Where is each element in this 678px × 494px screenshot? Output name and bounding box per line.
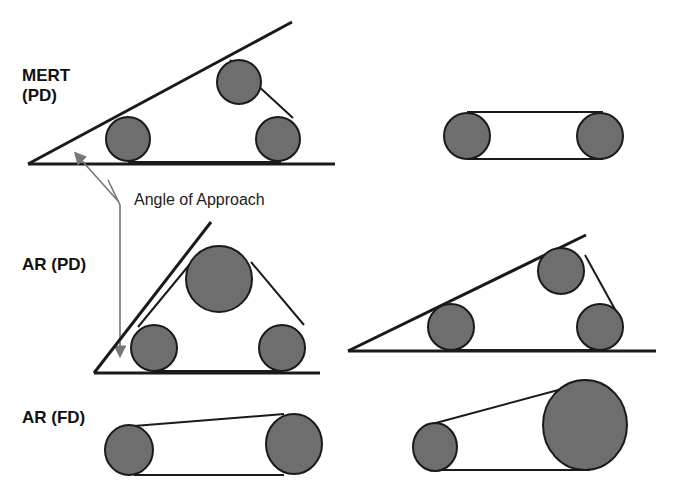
roller [256,117,300,161]
roller [259,325,305,371]
roller [217,60,261,104]
belt-top [134,414,284,426]
label-mert-line2: (PD) [22,86,70,106]
roller-large [186,246,252,312]
belt-configuration-diagram: MERT (PD) Angle of Approach AR (PD) AR (… [0,0,678,494]
roller [131,325,177,371]
arrow-to-mert [76,154,118,201]
roller [106,117,150,161]
label-angle-of-approach: Angle of Approach [134,191,265,209]
label-ar-pd: AR (PD) [22,255,86,275]
roller-large [543,380,627,470]
roller [577,304,623,350]
ar-pd-right-diagram [348,235,656,351]
label-mert-pd: MERT (PD) [22,66,70,106]
roller [105,425,153,475]
diagram-canvas [0,0,678,494]
roller [428,304,474,350]
arrow-to-ar-pd [108,180,120,355]
roller-small [413,423,457,471]
roller [266,414,322,474]
ar-pd-left-diagram [94,222,320,373]
ar-fd-left-diagram [105,414,322,475]
label-ar-fd: AR (FD) [22,408,85,428]
roller [577,113,623,159]
label-mert-line1: MERT [22,66,70,86]
roller [444,113,490,159]
roller [538,248,584,294]
mert-pd-left-diagram [28,22,335,164]
ar-fd-right-diagram [413,380,627,471]
mert-pd-right-diagram [444,112,623,159]
